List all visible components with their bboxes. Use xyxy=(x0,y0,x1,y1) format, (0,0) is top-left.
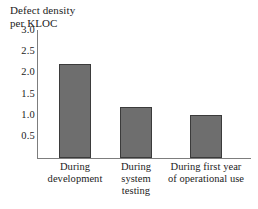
bar-series xyxy=(37,30,251,158)
bar-chart-figure: Defect density per KLOC 3.02.52.01.51.00… xyxy=(0,0,258,209)
y-tick-label: 0.5 xyxy=(1,131,35,142)
bar xyxy=(190,115,222,158)
bar xyxy=(59,64,91,158)
cutoff-caption xyxy=(8,206,252,209)
x-category-label: During development xyxy=(36,161,114,185)
x-category-label: During first year of operational use xyxy=(156,161,256,185)
y-tick-label: 1.5 xyxy=(1,89,35,100)
y-tick-label: 1.0 xyxy=(1,110,35,121)
y-tick-label: 2.5 xyxy=(1,46,35,57)
y-tick-label: 3.0 xyxy=(1,25,35,36)
x-axis-category-labels: During developmentDuring system testingD… xyxy=(0,161,258,206)
y-tick-label: 2.0 xyxy=(1,67,35,78)
x-category-label: During system testing xyxy=(110,161,162,198)
bar xyxy=(120,107,152,158)
x-axis-line xyxy=(37,158,251,159)
